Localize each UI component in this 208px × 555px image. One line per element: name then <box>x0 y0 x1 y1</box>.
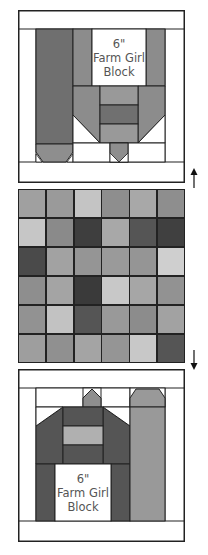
grid-cell <box>47 248 73 275</box>
grid-cell <box>158 219 184 246</box>
grid-cell <box>102 277 128 304</box>
bottom-farm-girl-block: 6" Farm Girl Block <box>18 369 185 542</box>
grid-cell <box>75 190 101 217</box>
arrow-down-icon <box>189 350 199 370</box>
grid-cell <box>130 277 156 304</box>
block-label: 6" Farm Girl Block <box>55 464 111 521</box>
grid-cell <box>130 219 156 246</box>
grid-cell <box>158 190 184 217</box>
grid-cell <box>47 335 73 362</box>
grid-cell <box>102 306 128 333</box>
grid-cell <box>47 277 73 304</box>
grid-cell <box>19 306 45 333</box>
grid-cell <box>19 219 45 246</box>
grid-cell <box>102 248 128 275</box>
grid-cell <box>102 190 128 217</box>
top-farm-girl-block: 6" Farm Girl Block <box>18 10 185 183</box>
patchwork-grid <box>18 189 185 363</box>
grid-cell <box>158 335 184 362</box>
grid-cell <box>75 335 101 362</box>
grid-cell <box>158 306 184 333</box>
block-word-text: Block <box>67 500 98 514</box>
block-size-text: 6" <box>77 472 90 486</box>
grid-cell <box>130 335 156 362</box>
block-name-text: Farm Girl <box>93 51 145 65</box>
grid-cell <box>130 190 156 217</box>
grid-cell <box>130 248 156 275</box>
grid-cell <box>130 306 156 333</box>
grid-cell <box>19 190 45 217</box>
block-word-text: Block <box>103 65 134 79</box>
block-name-text: Farm Girl <box>57 486 109 500</box>
grid-cell <box>158 277 184 304</box>
grid-cell <box>19 277 45 304</box>
grid-cell <box>19 335 45 362</box>
grid-cell <box>102 219 128 246</box>
arrow-up-icon <box>189 168 199 188</box>
grid-cell <box>75 248 101 275</box>
grid-cell <box>47 219 73 246</box>
grid-cell <box>75 306 101 333</box>
block-label: 6" Farm Girl Block <box>92 29 146 86</box>
block-size-text: 6" <box>113 37 126 51</box>
grid-cell <box>19 248 45 275</box>
grid-cell <box>158 248 184 275</box>
grid-cell <box>75 219 101 246</box>
grid-cell <box>102 335 128 362</box>
grid-cell <box>47 190 73 217</box>
grid-cell <box>47 306 73 333</box>
grid-cell <box>75 277 101 304</box>
